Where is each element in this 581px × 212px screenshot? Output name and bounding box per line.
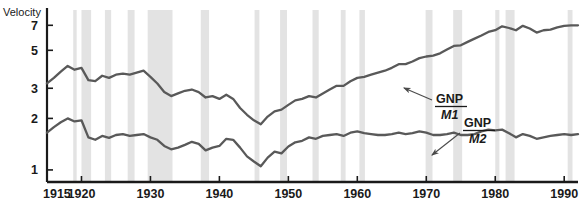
gnp-m1-label-denominator: M1 <box>441 108 458 122</box>
x-tick-label: 1970 <box>412 187 440 201</box>
recession-band <box>128 10 135 182</box>
x-tick-label: 1930 <box>137 187 165 201</box>
recession-band <box>105 10 111 182</box>
gnp-m2-label-denominator: M2 <box>469 132 486 146</box>
gnp-m1-label-numerator: GNP <box>436 92 463 106</box>
x-tick-label: 1920 <box>68 187 96 201</box>
gnp-m1-label: GNPM1 <box>404 88 467 122</box>
recession-band <box>81 10 91 182</box>
recession-bands-group <box>73 10 572 182</box>
x-tick-label: 1960 <box>343 187 371 201</box>
recession-band <box>426 10 433 182</box>
y-tick-label: 5 <box>31 44 38 58</box>
velocity-chart: 1235719151920193019401950196019701980199… <box>0 0 581 212</box>
gnp-m2-label-numerator: GNP <box>464 116 491 130</box>
recession-band <box>495 10 499 182</box>
x-tick-label: 1980 <box>481 187 509 201</box>
recession-band <box>506 10 515 182</box>
annotations-group: GNPM1GNPM2 <box>404 88 495 155</box>
x-tick-label: 1950 <box>274 187 302 201</box>
x-tick-label: 1940 <box>205 187 233 201</box>
recession-band <box>359 10 365 182</box>
y-tick-label: 7 <box>31 19 38 33</box>
recession-band <box>280 10 287 182</box>
recession-band <box>73 10 76 182</box>
chart-page: 1235719151920193019401950196019701980199… <box>0 0 581 212</box>
recession-band <box>255 10 260 182</box>
y-tick-label: 1 <box>31 163 38 177</box>
y-axis-title: Velocity <box>3 6 41 18</box>
recession-band <box>341 10 346 182</box>
recession-band <box>568 10 573 182</box>
x-tick-label: 1990 <box>550 187 578 201</box>
y-tick-label: 2 <box>31 112 38 126</box>
y-tick-label: 3 <box>31 82 38 96</box>
